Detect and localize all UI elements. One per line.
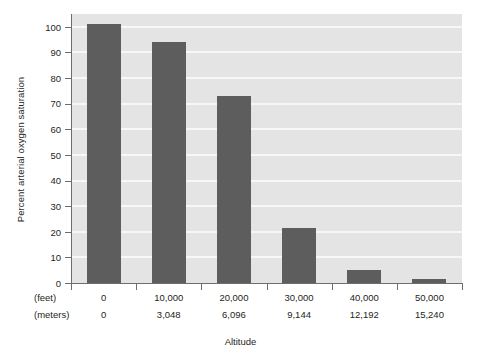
x-axis-value-feet: 50,000	[415, 292, 444, 303]
gridline	[71, 26, 462, 28]
x-axis-tick-mark	[136, 284, 137, 290]
y-axis-tick: 100	[36, 27, 71, 28]
y-axis-tick-label: 10	[50, 253, 65, 263]
y-axis-tick: 30	[36, 206, 71, 207]
bar	[217, 96, 251, 283]
x-unit-feet-label: (feet)	[34, 292, 102, 303]
x-unit-meters-label: (meters)	[34, 309, 102, 320]
x-axis-value-meters: 3,048	[157, 309, 181, 320]
x-axis-value-meters: 12,192	[350, 309, 379, 320]
y-axis-tick-label: 70	[50, 99, 65, 109]
y-axis-tick-label: 0	[56, 278, 65, 288]
gridline	[71, 103, 462, 105]
y-axis-tick-label: 90	[50, 48, 65, 58]
x-axis-value-feet: 10,000	[154, 292, 183, 303]
x-axis-tick-mark	[201, 284, 202, 290]
gridline	[71, 77, 462, 79]
gridline	[71, 154, 462, 156]
y-axis-title: Percent arterial oxygen saturation	[12, 14, 30, 284]
y-axis-tick: 0	[36, 283, 71, 284]
x-axis-tick-mark	[462, 284, 463, 290]
y-axis-tick-label: 100	[45, 22, 65, 32]
y-axis-tick: 90	[36, 52, 71, 53]
x-axis-title: Altitude	[0, 336, 481, 347]
x-axis-tick-mark	[267, 284, 268, 290]
y-axis-tick-label: 60	[50, 125, 65, 135]
y-axis-tick: 60	[36, 129, 71, 130]
bar	[347, 270, 381, 283]
gridline	[71, 51, 462, 53]
x-axis-value-feet: 30,000	[285, 292, 314, 303]
y-axis-tick-label: 40	[50, 176, 65, 186]
gridline	[71, 180, 462, 182]
x-axis-value-meters: 9,144	[287, 309, 311, 320]
x-axis-tick-mark	[397, 284, 398, 290]
plot-area	[71, 14, 462, 283]
y-axis-line	[71, 14, 72, 283]
gridline	[71, 256, 462, 258]
gridline	[71, 231, 462, 233]
y-axis-tick: 20	[36, 232, 71, 233]
y-axis-tick: 80	[36, 78, 71, 79]
bar	[87, 24, 121, 283]
chart-figure: Percent arterial oxygen saturation 01020…	[0, 0, 481, 357]
y-axis-tick: 10	[36, 257, 71, 258]
y-axis-tick-label: 20	[50, 227, 65, 237]
y-axis-title-text: Percent arterial oxygen saturation	[16, 76, 27, 221]
x-axis-value-feet: 40,000	[350, 292, 379, 303]
x-axis-tick-mark	[332, 284, 333, 290]
x-axis-value-meters: 6,096	[222, 309, 246, 320]
gridline	[71, 128, 462, 130]
x-axis-value-meters: 0	[101, 309, 106, 320]
gridline	[71, 205, 462, 207]
y-axis-tick: 40	[36, 181, 71, 182]
y-axis-tick-label: 80	[50, 73, 65, 83]
x-axis-value-meters: 15,240	[415, 309, 444, 320]
bar	[152, 42, 186, 283]
x-axis-tick-mark	[71, 284, 72, 290]
y-axis-tick: 50	[36, 155, 71, 156]
bar	[282, 228, 316, 283]
x-axis-value-feet: 20,000	[219, 292, 248, 303]
y-axis-tick: 70	[36, 104, 71, 105]
x-axis-value-feet: 0	[101, 292, 106, 303]
x-axis-labels: (feet) (meters) 010,00020,00030,00040,00…	[0, 292, 481, 332]
y-axis-tick-label: 30	[50, 201, 65, 211]
y-axis-tick-label: 50	[50, 150, 65, 160]
